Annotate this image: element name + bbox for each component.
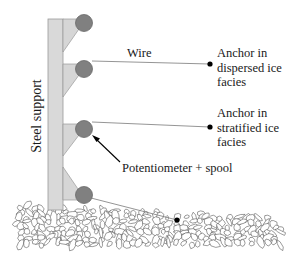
pebble	[248, 219, 254, 226]
wire-middle	[92, 122, 210, 127]
potentiometer-spool-label: Potentiometer + spool	[122, 161, 233, 175]
pebble	[190, 219, 199, 223]
pebble	[249, 241, 254, 246]
spools	[76, 15, 93, 204]
pebble	[119, 219, 127, 223]
pebble	[161, 230, 165, 235]
pebble	[15, 212, 22, 221]
pebble	[184, 215, 189, 219]
pebble	[209, 240, 221, 248]
anchor-dot-icon	[207, 124, 212, 129]
pebble	[45, 220, 51, 225]
pebble	[89, 237, 97, 243]
spool-icon	[76, 187, 93, 204]
anchor-dot-icon	[174, 217, 179, 222]
wires	[91, 61, 210, 220]
pebble	[152, 227, 160, 236]
pebble	[117, 238, 122, 249]
pebble	[107, 241, 112, 246]
svg-text:Anchor in: Anchor in	[217, 46, 268, 60]
anchors	[174, 61, 212, 222]
pebble	[189, 242, 194, 248]
pebble	[240, 239, 245, 246]
pebble	[89, 243, 98, 247]
wire-label: Wire	[127, 46, 152, 60]
pebble	[75, 209, 85, 213]
spool-icon	[76, 121, 93, 138]
arrow-icon	[92, 135, 120, 162]
pebble	[82, 219, 91, 225]
anchor-stratified-label: Anchor in stratified ice facies	[217, 106, 280, 149]
spool-icon	[76, 15, 93, 32]
svg-text:stratified ice: stratified ice	[217, 121, 280, 135]
svg-text:dispersed ice: dispersed ice	[217, 61, 282, 75]
pebble	[181, 241, 187, 246]
spool-icon	[76, 61, 93, 78]
wire-extensometer-diagram: Steel support Wire Anchor in dispersed i…	[0, 0, 297, 261]
pebble	[75, 241, 83, 247]
steel-support-label: Steel support	[29, 79, 44, 153]
pebble	[158, 223, 164, 228]
pebble	[129, 215, 135, 219]
pebble	[195, 241, 200, 248]
pebble	[39, 243, 44, 248]
pebble	[24, 229, 30, 235]
anchor-dot-icon	[207, 61, 212, 66]
pebble	[23, 201, 31, 209]
svg-text:facies: facies	[217, 75, 246, 89]
pebble	[17, 240, 24, 250]
pebble	[104, 232, 113, 241]
brackets	[63, 19, 80, 200]
svg-text:facies: facies	[217, 135, 246, 149]
pebble	[254, 214, 263, 221]
pebble	[38, 235, 45, 240]
pebble	[94, 229, 98, 234]
pebble	[144, 214, 152, 218]
steel-support-post	[48, 19, 63, 210]
anchor-dispersed-label: Anchor in dispersed ice facies	[217, 46, 282, 89]
pebble	[277, 240, 283, 251]
wire-upper	[92, 61, 210, 64]
pebble	[143, 228, 152, 235]
pebble	[180, 225, 189, 231]
svg-text:Anchor in: Anchor in	[217, 106, 268, 120]
pebble	[128, 220, 137, 224]
pebble	[39, 224, 46, 231]
